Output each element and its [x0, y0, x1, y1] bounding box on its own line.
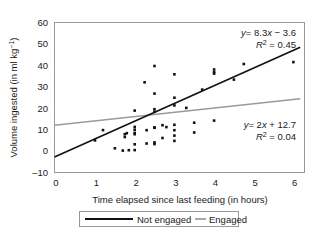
y-tick-10: 10	[37, 124, 48, 135]
not-engaged-equation: y= 8.3x − 3.6	[240, 27, 296, 38]
data-point	[185, 107, 188, 110]
data-point	[213, 68, 216, 71]
data-point	[173, 129, 176, 132]
y-axis-title-group: Volume ingested (in ml kg−1)	[8, 38, 20, 158]
data-point	[292, 61, 295, 64]
engaged-equation: y= 2x + 12.7	[243, 119, 296, 130]
data-point	[233, 78, 236, 81]
data-point	[201, 88, 204, 91]
data-point	[193, 121, 196, 124]
data-point	[126, 132, 129, 135]
data-point	[173, 134, 176, 137]
x-tick-1: 1	[94, 177, 99, 188]
data-point	[153, 111, 156, 114]
scatter-plot-svg: 60 50 40 30 20 10 0 –10 0 1 2 3 4 5 6 Vo…	[0, 0, 318, 229]
data-point	[173, 104, 176, 107]
data-point	[213, 119, 216, 122]
data-point	[145, 142, 148, 145]
y-axis-title: Volume ingested (in ml kg−1)	[8, 38, 20, 158]
data-point	[193, 131, 196, 134]
data-point	[133, 109, 136, 112]
legend-label-not-engaged: Not engaged	[137, 214, 191, 225]
data-point	[143, 81, 146, 84]
data-point	[145, 129, 148, 132]
data-point	[213, 72, 216, 75]
y-tick-20: 20	[37, 103, 48, 114]
data-point	[153, 65, 156, 68]
legend-label-engaged: Engaged	[209, 214, 247, 225]
x-axis-title: Time elapsed since last feeding (in hour…	[92, 194, 268, 205]
data-point	[133, 133, 136, 136]
data-point	[153, 127, 156, 130]
data-point	[133, 128, 136, 131]
x-tick-0: 0	[53, 177, 58, 188]
data-point	[173, 124, 176, 127]
data-point	[122, 149, 125, 152]
x-tick-4: 4	[213, 177, 218, 188]
x-tick-3: 3	[173, 177, 178, 188]
data-point	[153, 92, 156, 95]
data-point	[102, 129, 105, 132]
data-point	[161, 137, 164, 140]
data-point	[161, 124, 164, 127]
y-tick-neg10: –10	[32, 167, 48, 178]
data-point	[94, 139, 97, 142]
data-point	[124, 136, 127, 139]
x-tick-5: 5	[252, 177, 257, 188]
data-point	[153, 108, 156, 111]
engaged-r-squared: R2 = 0.04	[256, 131, 296, 143]
data-point	[114, 147, 117, 150]
data-point	[173, 96, 176, 99]
not-engaged-r-squared: R2 = 0.45	[256, 39, 296, 51]
y-tick-0: 0	[43, 145, 48, 156]
chart-figure: 60 50 40 30 20 10 0 –10 0 1 2 3 4 5 6 Vo…	[0, 0, 318, 229]
data-point	[153, 143, 156, 146]
data-point	[173, 140, 176, 143]
y-tick-30: 30	[37, 81, 48, 92]
y-tick-40: 40	[37, 60, 48, 71]
x-tick-2: 2	[133, 177, 138, 188]
data-point	[243, 63, 246, 66]
data-point	[133, 149, 136, 152]
data-point	[173, 73, 176, 76]
data-point	[128, 149, 131, 152]
x-tick-6: 6	[292, 177, 297, 188]
data-point	[165, 126, 168, 129]
y-tick-60: 60	[37, 17, 48, 28]
data-point	[133, 126, 136, 129]
data-point	[133, 143, 136, 146]
y-tick-50: 50	[37, 38, 48, 49]
